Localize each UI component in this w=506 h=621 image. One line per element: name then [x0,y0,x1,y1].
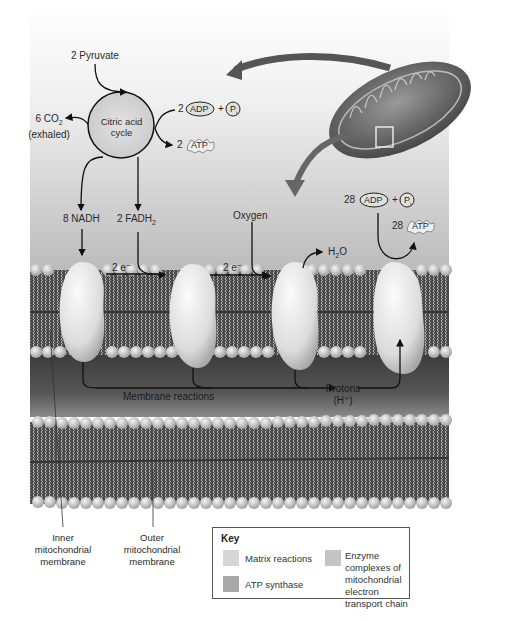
enzyme-complexes-swatch [325,550,341,566]
enzyme-line3: transport chain [345,598,409,610]
outer-line3: membrane [119,556,185,568]
cycle-pi-label: Pi [230,103,237,119]
synthase-pi-subscript: i [410,201,411,207]
enzyme-line2: mitochondrial electron [345,574,409,598]
outer-line1: Outer [119,532,185,544]
inner-line2: mitochondrial [30,544,96,556]
synthase-atp-coefficient: 28 [392,220,403,232]
matrix-reactions-label: Matrix reactions [245,553,312,565]
electrons-label-2: 2 e⁻ [223,262,242,274]
pyruvate-label: 2 Pyruvate [71,50,119,62]
citric-acid-cycle-label: Citric acid cycle [94,116,149,138]
cycle-atp-coefficient: 2 [177,139,183,151]
synthase-pi-label: Pi [404,194,411,210]
fadh-text: 2 FADH [117,213,152,224]
water-label: H2O [328,246,347,262]
nadh-label: 8 NADH [63,213,100,225]
synthase-plus: + [392,194,398,206]
co2-label: 6 CO2 (exhaled) [28,113,70,141]
outer-membrane [30,414,452,509]
cycle-adp-label: ADP [190,103,209,115]
enzyme-complex-1 [60,262,105,362]
outer-line2: mitochondrial [119,544,185,556]
protons-label: Protons (H⁺) [318,383,368,407]
cycle-label-line1: Citric acid [94,116,149,127]
inner-line3: membrane [30,556,96,568]
co2-subscript: 2 [59,119,63,126]
cycle-adp-coefficient: 2 [178,103,184,115]
synthase-atp-label: ATP [412,220,429,232]
protons-line1: Protons [318,383,368,395]
key-title: Key [221,533,239,544]
atp-synthase [374,262,425,374]
protons-line2: (H⁺) [318,395,368,407]
pi-subscript: i [236,110,237,116]
atp-synthase-label: ATP synthase [245,579,303,591]
legend-key: Key Matrix reactions ATP synthase Enzyme… [212,527,410,599]
inner-membrane-label: Inner mitochondrial membrane [30,532,96,568]
co2-exhaled: (exhaled) [28,129,70,141]
membrane-reactions-label: Membrane reactions [123,391,214,403]
water-o: O [339,246,347,257]
fadh-subscript: 2 [152,219,156,226]
matrix-reactions-swatch [223,550,239,566]
cycle-atp-label: ATP [191,139,208,151]
outer-membrane-label: Outer mitochondrial membrane [119,532,185,568]
oxygen-label: Oxygen [233,210,267,222]
enzyme-line1: Enzyme complexes of [345,550,409,574]
electrons-label-1: 2 e⁻ [112,262,131,274]
cycle-label-line2: cycle [94,127,149,138]
cycle-plus: + [218,103,224,115]
synthase-adp-label: ADP [364,194,383,206]
synthase-adp-coefficient: 28 [344,194,355,206]
enzyme-complexes-label: Enzyme complexes of mitochondrial electr… [345,550,409,610]
inner-line1: Inner [30,532,96,544]
co2-text: 6 CO [35,113,58,124]
fadh2-label: 2 FADH2 [117,213,156,229]
atp-synthase-swatch [223,576,239,592]
